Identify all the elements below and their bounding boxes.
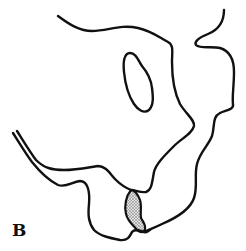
lower-left-upper-line [17,131,131,190]
inner-oval [124,53,153,112]
upper-outline [58,16,194,192]
stippled-region [125,190,145,232]
diagram-drawing [0,0,246,251]
diagram-figure: B [0,0,246,251]
lower-left-lower-line [13,133,150,240]
panel-label: B [12,222,26,239]
right-outline [144,10,234,232]
